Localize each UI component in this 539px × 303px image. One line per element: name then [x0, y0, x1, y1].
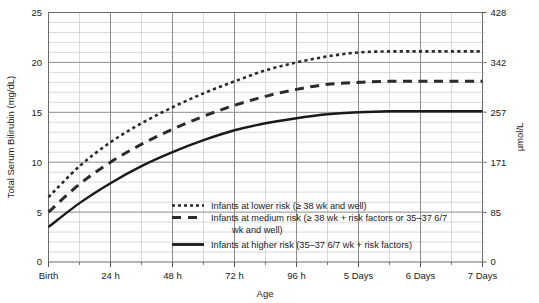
legend-label-medium-risk: Infants at medium risk (≥ 38 wk + risk f…	[211, 213, 447, 223]
y-axis-left-title: Total Serum Bilirubin (mg/dL)	[5, 76, 16, 199]
chart-canvas: 0510152025 085171257342428 Birth24 h48 h…	[0, 0, 539, 303]
y-axis-right-tick-label: 342	[491, 57, 507, 68]
legend-label-lower-risk: Infants at lower risk (≥ 38 wk and well)	[211, 201, 367, 211]
x-axis-tick-label: 24 h	[101, 270, 120, 281]
x-axis-tick-label: 7 Days	[468, 270, 498, 281]
y-axis-left-tick-label: 15	[31, 107, 42, 118]
x-axis-tick-label: 72 h	[225, 270, 244, 281]
y-axis-right-tick-label: 0	[491, 256, 496, 267]
x-axis-tick-label: 48 h	[163, 270, 182, 281]
x-axis-tick-label: Birth	[39, 270, 59, 281]
y-axis-right-tick-label: 428	[491, 7, 507, 18]
legend-label-higher-risk: Infants at higher risk (35–37 6/7 wk + r…	[211, 240, 412, 250]
y-axis-right-tick-label: 257	[491, 107, 507, 118]
y-axis-right-tick-label: 171	[491, 157, 507, 168]
x-axis-tick-label: 5 Days	[344, 270, 374, 281]
y-axis-left-tick-label: 0	[37, 256, 42, 267]
y-axis-left-tick-label: 25	[31, 7, 42, 18]
y-axis-left-tick-label: 5	[37, 207, 42, 218]
x-axis-tick-label: 6 Days	[406, 270, 436, 281]
y-axis-left-tick-label: 20	[31, 57, 42, 68]
chart-background	[0, 0, 539, 303]
bilirubin-nomogram-chart: 0510152025 085171257342428 Birth24 h48 h…	[0, 0, 539, 303]
y-axis-left-tick-label: 10	[31, 157, 42, 168]
y-axis-right-tick-label: 85	[491, 207, 502, 218]
y-axis-right-title: µmol/L	[514, 123, 525, 152]
x-axis-title: Age	[257, 288, 274, 299]
legend-label-medium-risk-line2: wk and well)	[231, 225, 283, 235]
x-axis-tick-label: 96 h	[287, 270, 306, 281]
